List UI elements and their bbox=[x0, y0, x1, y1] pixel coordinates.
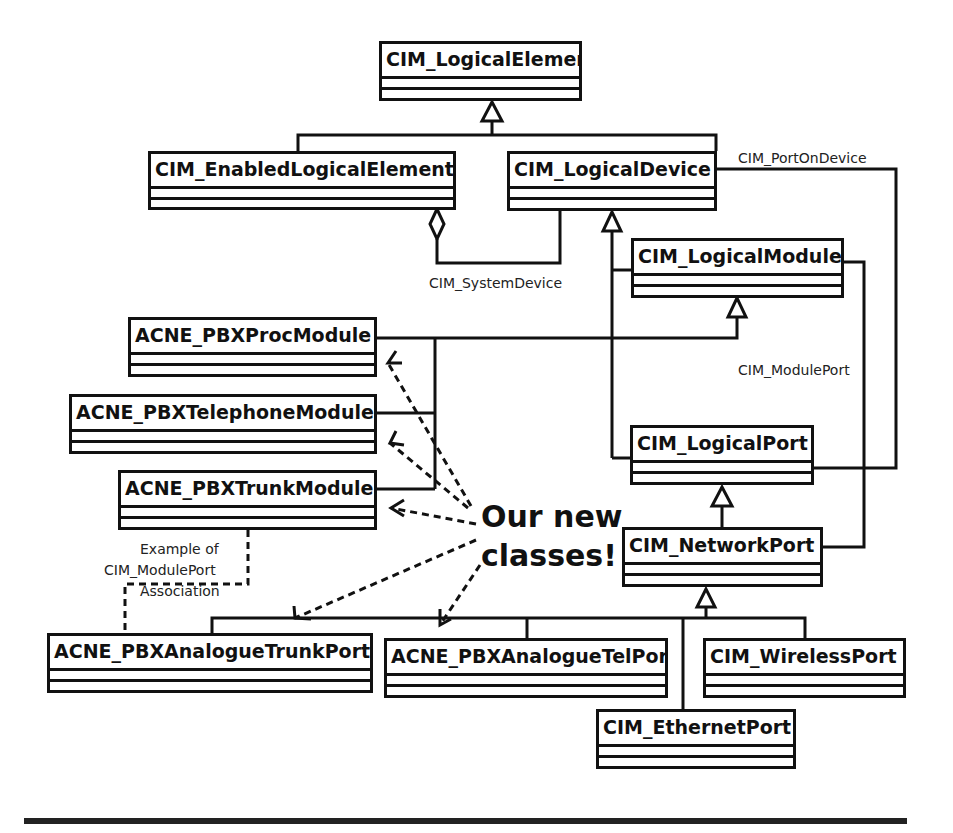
class-cim-logical-device[interactable]: CIM_LogicalDevice bbox=[507, 151, 717, 211]
class-attributes bbox=[121, 508, 374, 519]
class-cim-enabled-logical-element[interactable]: CIM_EnabledLogicalElement bbox=[148, 151, 456, 210]
class-name: CIM_WirelessPort bbox=[706, 641, 903, 676]
class-attributes bbox=[387, 676, 665, 687]
class-cim-logical-port[interactable]: CIM_LogicalPort bbox=[630, 425, 814, 485]
generalization-logical-element bbox=[298, 102, 716, 151]
callout-line-1: Our new bbox=[481, 497, 623, 537]
class-attributes bbox=[50, 671, 370, 682]
class-operations bbox=[510, 200, 714, 208]
class-name: CIM_NetworkPort bbox=[625, 530, 820, 565]
association-module-port bbox=[823, 262, 864, 547]
note-line-3: Association bbox=[140, 583, 220, 599]
class-name: ACNE_PBXAnalogueTelPort bbox=[387, 641, 665, 676]
class-cim-logical-element[interactable]: CIM_LogicalElement bbox=[379, 41, 582, 101]
bottom-rule-full bbox=[24, 818, 907, 824]
class-attributes bbox=[706, 676, 903, 687]
class-operations bbox=[633, 474, 811, 482]
class-cim-network-port[interactable]: CIM_NetworkPort bbox=[622, 527, 823, 587]
class-attributes bbox=[634, 276, 841, 287]
class-acne-pbx-analogue-trunk-port[interactable]: ACNE_PBXAnalogueTrunkPort bbox=[47, 633, 373, 693]
class-attributes bbox=[510, 189, 714, 200]
class-acne-pbx-telephone-module[interactable]: ACNE_PBXTelephoneModule bbox=[69, 394, 377, 454]
class-attributes bbox=[625, 565, 820, 576]
class-cim-wireless-port[interactable]: CIM_WirelessPort bbox=[703, 638, 906, 698]
class-cim-logical-module[interactable]: CIM_LogicalModule bbox=[631, 238, 844, 298]
class-operations bbox=[151, 200, 453, 207]
class-attributes bbox=[382, 79, 579, 90]
note-line-1: Example of bbox=[140, 541, 219, 557]
class-operations bbox=[599, 758, 793, 766]
class-name: CIM_LogicalModule bbox=[634, 241, 841, 276]
class-acne-pbx-trunk-module[interactable]: ACNE_PBXTrunkModule bbox=[118, 470, 377, 530]
class-name: ACNE_PBXTrunkModule bbox=[121, 473, 374, 508]
label-system-device: CIM_SystemDevice bbox=[429, 275, 562, 291]
class-operations bbox=[72, 443, 374, 451]
class-name: CIM_LogicalElement bbox=[382, 44, 579, 79]
class-name: CIM_LogicalDevice bbox=[510, 154, 714, 189]
label-module-port: CIM_ModulePort bbox=[738, 362, 850, 378]
class-operations bbox=[50, 682, 370, 690]
class-attributes bbox=[72, 432, 374, 443]
class-name: CIM_LogicalPort bbox=[633, 428, 811, 463]
association-system-device bbox=[430, 209, 560, 263]
class-attributes bbox=[599, 747, 793, 758]
class-cim-ethernet-port[interactable]: CIM_EthernetPort bbox=[596, 709, 796, 769]
class-operations bbox=[625, 576, 820, 584]
generalization-logical-port bbox=[712, 487, 732, 527]
callout-line-2: classes! bbox=[481, 536, 617, 576]
class-attributes bbox=[131, 355, 374, 366]
class-name: ACNE_PBXAnalogueTrunkPort bbox=[50, 636, 370, 671]
note-line-2: CIM_ModulePort bbox=[104, 562, 216, 578]
class-name: CIM_EthernetPort bbox=[599, 712, 793, 747]
class-operations bbox=[121, 519, 374, 527]
generalization-logical-device bbox=[603, 212, 632, 458]
class-operations bbox=[706, 687, 903, 695]
label-port-on-device: CIM_PortOnDevice bbox=[738, 150, 867, 166]
class-operations bbox=[382, 90, 579, 98]
class-name: ACNE_PBXTelephoneModule bbox=[72, 397, 374, 432]
class-acne-pbx-analogue-tel-port[interactable]: ACNE_PBXAnalogueTelPort bbox=[384, 638, 668, 698]
class-name: CIM_EnabledLogicalElement bbox=[151, 154, 453, 189]
class-operations bbox=[131, 366, 374, 374]
class-attributes bbox=[633, 463, 811, 474]
class-attributes bbox=[151, 189, 453, 200]
class-operations bbox=[634, 287, 841, 295]
class-operations bbox=[387, 687, 665, 695]
class-name: ACNE_PBXProcModule bbox=[131, 320, 374, 355]
class-acne-pbx-proc-module[interactable]: ACNE_PBXProcModule bbox=[128, 317, 377, 377]
